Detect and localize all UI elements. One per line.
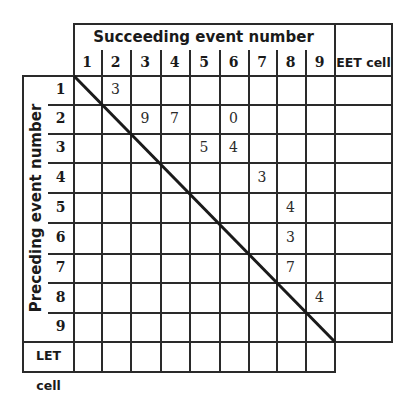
diagonal-line [0,0,411,393]
